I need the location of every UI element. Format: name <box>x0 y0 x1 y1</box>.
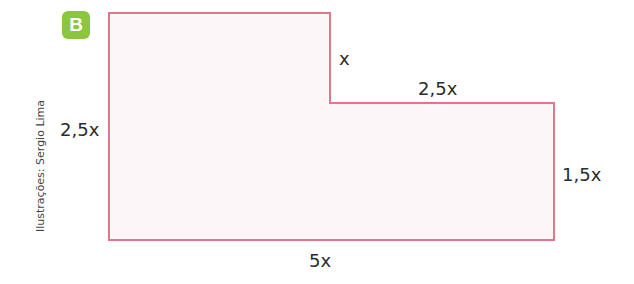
label-right-height: 1,5x <box>562 164 601 185</box>
l-shape-figure <box>0 0 634 284</box>
label-bottom-width: 5x <box>309 250 331 271</box>
l-shape-polygon <box>109 13 554 240</box>
illustration-credit: Ilustrações: Sergio Lima <box>34 100 47 232</box>
label-top-right-width: 2,5x <box>418 78 457 99</box>
label-notch-height: x <box>339 48 350 69</box>
label-left-height: 2,5x <box>60 119 99 140</box>
